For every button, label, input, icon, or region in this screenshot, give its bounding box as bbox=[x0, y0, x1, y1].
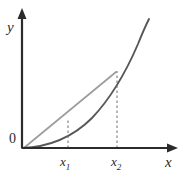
math-graph-figure: y x 0 x1 x2 bbox=[0, 0, 186, 185]
secant-line bbox=[25, 72, 116, 147]
x1-tick-label: x1 bbox=[60, 155, 70, 172]
x2-tick-label: x2 bbox=[111, 155, 121, 172]
y-axis-label: y bbox=[7, 20, 14, 35]
x2-subscript: 2 bbox=[117, 162, 122, 172]
x-axis-arrowhead-icon bbox=[167, 144, 178, 153]
y-axis-arrowhead-icon bbox=[18, 8, 27, 19]
x-axis-label: x bbox=[165, 155, 172, 170]
graph-canvas bbox=[0, 0, 186, 185]
origin-label: 0 bbox=[9, 132, 16, 146]
x1-subscript: 1 bbox=[66, 162, 71, 172]
curve-path bbox=[22, 19, 149, 148]
